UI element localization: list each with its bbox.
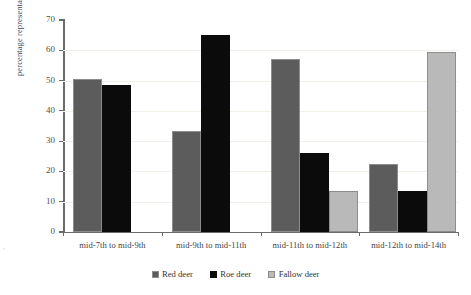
bar-fallow-deer bbox=[427, 52, 456, 232]
y-tick-label: 70 bbox=[31, 15, 55, 24]
legend-item: Fallow deer bbox=[268, 269, 319, 279]
x-category-label: mid-12th to mid-14th bbox=[359, 240, 458, 250]
x-tick-mark bbox=[63, 232, 64, 236]
legend-swatch-icon bbox=[152, 271, 159, 278]
bar-roe-deer bbox=[201, 35, 230, 232]
bar-red-deer bbox=[172, 131, 201, 232]
y-tick-label: 30 bbox=[31, 136, 55, 145]
x-tick-mark bbox=[261, 232, 262, 236]
legend-item: Roe deer bbox=[210, 269, 251, 279]
bar-chart: percentage representation 01020304050607… bbox=[0, 0, 471, 295]
y-axis-title: percentage representation bbox=[14, 0, 30, 76]
bar-roe-deer bbox=[398, 191, 427, 232]
y-tick-label: 60 bbox=[31, 45, 55, 54]
scan-artifact: . bbox=[3, 244, 7, 250]
x-tick-mark bbox=[458, 232, 459, 236]
legend-swatch-icon bbox=[210, 271, 217, 278]
bar-red-deer bbox=[271, 59, 300, 232]
bar-roe-deer bbox=[102, 85, 131, 232]
legend-label: Red deer bbox=[162, 269, 193, 279]
x-tick-mark bbox=[162, 232, 163, 236]
legend-label: Roe deer bbox=[220, 269, 251, 279]
x-category-label: mid-7th to mid-9th bbox=[63, 240, 162, 250]
bar-red-deer bbox=[73, 79, 102, 232]
bar-group bbox=[359, 20, 458, 232]
bar-fallow-deer bbox=[329, 191, 358, 232]
bar-roe-deer bbox=[300, 153, 329, 232]
y-tick-label: 0 bbox=[31, 227, 55, 236]
chart-legend: Red deerRoe deerFallow deer bbox=[0, 269, 471, 279]
x-category-label: mid-9th to mid-11th bbox=[162, 240, 261, 250]
y-tick-label: 50 bbox=[31, 76, 55, 85]
x-tick-mark bbox=[359, 232, 360, 236]
bar-group bbox=[261, 20, 360, 232]
bar-group bbox=[63, 20, 162, 232]
x-category-label: mid-11th to mid-12th bbox=[261, 240, 360, 250]
legend-label: Fallow deer bbox=[279, 269, 320, 279]
y-tick-label: 20 bbox=[31, 166, 55, 175]
legend-item: Red deer bbox=[152, 269, 193, 279]
bar-group bbox=[162, 20, 261, 232]
y-tick-label: 10 bbox=[31, 197, 55, 206]
bar-red-deer bbox=[369, 164, 398, 232]
legend-swatch-icon bbox=[268, 271, 275, 278]
y-tick-label: 40 bbox=[31, 106, 55, 115]
plot-area: 010203040506070 bbox=[63, 20, 458, 232]
